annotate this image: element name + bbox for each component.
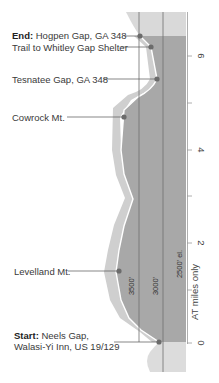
marker-tesnatee <box>154 76 159 81</box>
label-cowrock: Cowrock Mt. <box>12 112 65 123</box>
outside-segment-bottom <box>147 342 186 372</box>
label-levelland: Levelland Mt. <box>14 266 71 277</box>
axis-title: AT miles only <box>189 264 200 320</box>
label-tesnatee: Tesnatee Gap, GA 348 <box>12 74 108 85</box>
outside-segment-top <box>126 12 186 36</box>
label-start-line2: Walasi-Yi Inn, US 19/129 <box>14 341 119 352</box>
tick-label-0: 0 <box>196 340 207 345</box>
elevation-label-3000: 3000' <box>151 276 160 295</box>
label-start-text: Neels Gap, <box>39 330 89 341</box>
label-whitley: Trail to Whitley Gap Shelter <box>12 42 128 53</box>
marker-start <box>156 339 161 344</box>
marker-cowrock <box>121 114 126 119</box>
marker-whitley <box>148 44 153 49</box>
label-end-bold: End: <box>12 30 33 41</box>
tick-label-6: 6 <box>196 53 207 58</box>
label-end: End: Hogpen Gap, GA 348 <box>12 30 127 41</box>
marker-levelland <box>116 268 121 273</box>
label-start: Start: Neels Gap, <box>14 330 89 341</box>
elevation-profile-chart: 6 4 2 0 AT miles only 3500' 3000' 2500' … <box>0 0 219 383</box>
tick-label-4: 4 <box>196 147 207 152</box>
marker-end <box>137 33 142 38</box>
profile-svg: 6 4 2 0 AT miles only 3500' 3000' 2500' … <box>0 0 219 383</box>
elevation-label-3500: 3500' <box>127 276 136 295</box>
elevation-label-2500: 2500' el. <box>175 250 184 278</box>
tick-label-2: 2 <box>196 240 207 245</box>
label-start-bold: Start: <box>14 330 39 341</box>
label-end-text: Hogpen Gap, GA 348 <box>33 30 126 41</box>
